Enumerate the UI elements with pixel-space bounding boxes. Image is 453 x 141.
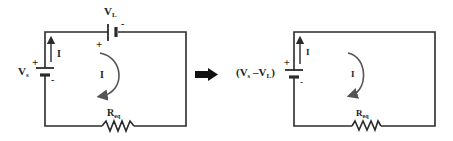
vl-plus: + <box>96 38 102 50</box>
right-circuit-wire <box>294 32 435 126</box>
loop-current-label: I <box>351 69 355 79</box>
circuit-diagram: + - Vs I VL + - I Req + - (Vs –VL) <box>0 0 453 141</box>
branch-current-label: I <box>306 47 310 57</box>
req-label: Req <box>356 108 369 119</box>
equivalent-source-label: (Vs –VL) <box>236 66 275 80</box>
eq-plus: + <box>284 57 290 68</box>
vs-minus: - <box>51 74 54 85</box>
vl-battery <box>108 24 116 41</box>
equivalent-battery <box>285 70 303 77</box>
transform-arrow-icon <box>195 68 218 81</box>
loop-current-label: I <box>100 69 104 80</box>
left-circuit: + - Vs I VL + - I Req <box>18 5 186 131</box>
req-resistor <box>102 121 134 131</box>
vs-label: Vs <box>18 65 29 79</box>
vl-minus: - <box>121 18 124 29</box>
branch-current-label: I <box>57 48 61 59</box>
left-circuit-wire <box>45 32 186 126</box>
eq-minus: - <box>300 77 303 87</box>
req-resistor <box>352 121 381 130</box>
req-label: Req <box>107 107 121 119</box>
vl-label: VL <box>104 5 117 19</box>
vs-plus: + <box>32 56 38 68</box>
right-circuit: + - (Vs –VL) I I Req <box>236 32 435 130</box>
